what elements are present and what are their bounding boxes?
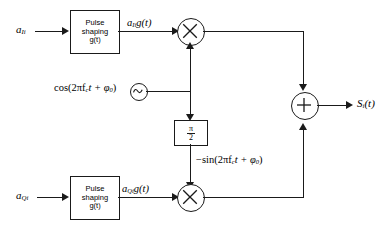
wire-output [317, 105, 348, 106]
arrow-carrier-into-i-mixer [186, 42, 194, 49]
wire-q-mixer-out [203, 197, 304, 198]
oscillator-source [130, 83, 148, 101]
signal-label-i-shaped: aIig(t) [127, 18, 151, 29]
pulse-shaping-line3-q: g(t) [89, 202, 100, 211]
wire-q-input [37, 197, 63, 198]
pulse-shaping-block-i: Pulse shaping g(t) [70, 10, 120, 54]
plus-icon [292, 93, 316, 117]
arrow-q-into-pulse-shaping [62, 193, 69, 201]
phase-shift-block: π 2 [174, 120, 208, 146]
phase-shift-denominator: 2 [187, 133, 195, 142]
arrow-output [346, 101, 353, 109]
summing-junction [291, 92, 319, 120]
multiply-icon [178, 185, 202, 209]
wire-i-down-to-adder [303, 31, 304, 86]
carrier-cos-label: cos(2πfct + φ0) [54, 83, 116, 94]
block-diagram-canvas: aIi Pulse shaping g(t) aIig(t) cos(2πfct… [0, 0, 392, 232]
wire-carrier-up [190, 44, 191, 91]
wire-phase-to-q-mixer [190, 144, 191, 186]
multiplier-q [177, 184, 205, 212]
multiply-icon [178, 19, 202, 43]
input-label-q: aQi [16, 190, 28, 202]
wire-q-up-to-adder [303, 125, 304, 197]
pulse-shaping-block-q: Pulse shaping g(t) [70, 176, 120, 220]
signal-label-q-shaped: aQig(t) [122, 184, 149, 195]
wire-i-to-mixer [118, 31, 174, 32]
wire-i-input [35, 31, 63, 32]
wire-carrier-out [146, 91, 190, 92]
arrow-i-into-pulse-shaping [62, 27, 69, 35]
carrier-sin-label: −sin(2πfct + φ0) [196, 155, 262, 166]
input-label-i: aIi [16, 24, 26, 36]
arrow-i-into-adder [299, 84, 307, 91]
pulse-shaping-line3-i: g(t) [89, 36, 100, 45]
sine-wave-icon [131, 84, 145, 98]
output-label: Si(t) [357, 98, 375, 110]
wire-q-to-mixer [118, 197, 174, 198]
arrow-q-into-adder [299, 123, 307, 130]
wire-i-mixer-out [203, 31, 304, 32]
phase-shift-numerator: π [187, 125, 195, 133]
